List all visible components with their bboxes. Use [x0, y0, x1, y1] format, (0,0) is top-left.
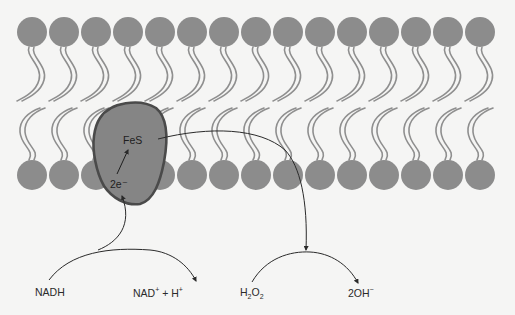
lipid-tail-top: [182, 47, 205, 101]
lipid-tail-bottom: [281, 108, 301, 160]
lipid-tail-bottom: [185, 108, 205, 160]
lipid-head-bottom: [49, 160, 79, 190]
lipid-tail-bottom: [308, 108, 328, 160]
lipid-tail-top: [246, 47, 269, 101]
lipid-tail-bottom: [276, 108, 296, 160]
lipid-tail-top: [150, 47, 173, 101]
lipid-head-top: [433, 17, 463, 47]
lipid-tail-bottom: [313, 108, 333, 160]
lipid-tail-bottom: [20, 108, 40, 160]
lipid-tail-bottom: [404, 108, 424, 160]
lipid-tail-top: [118, 47, 141, 101]
lipid-head-bottom: [177, 160, 207, 190]
lipid-tail-top: [86, 47, 109, 101]
lipid-tail-bottom: [441, 108, 461, 160]
lipid-tail-bottom: [345, 108, 365, 160]
electron-label: 2e⁻: [110, 178, 128, 190]
lipid-head-top: [81, 17, 111, 47]
lipid-tail-top: [22, 47, 45, 101]
lipid-head-top: [273, 17, 303, 47]
lipid-head-top: [113, 17, 143, 47]
lipid-head-top: [465, 17, 495, 47]
lipid-head-top: [177, 17, 207, 47]
lipid-head-bottom: [209, 160, 239, 190]
lipid-head-top: [241, 17, 271, 47]
lipid-tail-top: [310, 47, 333, 101]
lipid-tail-bottom: [436, 108, 456, 160]
lipid-head-bottom: [305, 160, 335, 190]
lipid-head-top: [17, 17, 47, 47]
lipid-tail-bottom: [468, 108, 488, 160]
lipid-tail-bottom: [52, 108, 72, 160]
lipid-head-bottom: [241, 160, 271, 190]
lipid-tail-bottom: [25, 108, 45, 160]
lipid-head-top: [145, 17, 175, 47]
fes-label: FeS: [123, 134, 142, 146]
lipid-tail-bottom: [217, 108, 237, 160]
lipid-tails: [17, 47, 493, 160]
lipid-tail-top: [214, 47, 237, 101]
lipid-tail-top: [438, 47, 461, 101]
fes-protein: [93, 103, 166, 205]
lipid-head-top: [305, 17, 335, 47]
lipid-head-bottom: [433, 160, 463, 190]
lipid-head-top: [337, 17, 367, 47]
membrane-diagram: [0, 0, 515, 315]
lipid-tail-bottom: [57, 108, 77, 160]
nadh-oxidation-arc: [49, 249, 196, 281]
lipid-tail-bottom: [244, 108, 264, 160]
lipid-tail-bottom: [372, 108, 392, 160]
peroxide-reduction-arc: [252, 252, 358, 283]
lipid-head-bottom: [465, 160, 495, 190]
lipid-head-top: [209, 17, 239, 47]
lipid-head-top: [369, 17, 399, 47]
lipid-tail-bottom: [340, 108, 360, 160]
lipid-tail-bottom: [409, 108, 429, 160]
lipid-tail-top: [278, 47, 301, 101]
lipid-tail-top: [342, 47, 365, 101]
electron-input-arrow: [98, 196, 126, 250]
lipid-tail-bottom: [377, 108, 397, 160]
lipid-head-bottom: [337, 160, 367, 190]
lipid-head-top: [49, 17, 79, 47]
hydrogen-peroxide-label: H2O2: [240, 286, 264, 300]
lipid-head-bottom: [401, 160, 431, 190]
lipid-head-bottom: [369, 160, 399, 190]
lipid-tail-bottom: [473, 108, 493, 160]
lipid-tail-top: [54, 47, 77, 101]
lipid-tail-top: [470, 47, 493, 101]
lipid-heads: [17, 17, 495, 190]
nad-plus-label: NAD+ + H+: [133, 286, 183, 299]
nadh-label: NADH: [35, 286, 65, 298]
hydroxide-label: 2OH−: [348, 286, 374, 299]
lipid-tail-top: [406, 47, 429, 101]
lipid-tail-top: [374, 47, 397, 101]
lipid-head-top: [401, 17, 431, 47]
lipid-head-bottom: [17, 160, 47, 190]
lipid-tail-bottom: [212, 108, 232, 160]
fes-to-peroxide-arrow: [158, 131, 306, 250]
